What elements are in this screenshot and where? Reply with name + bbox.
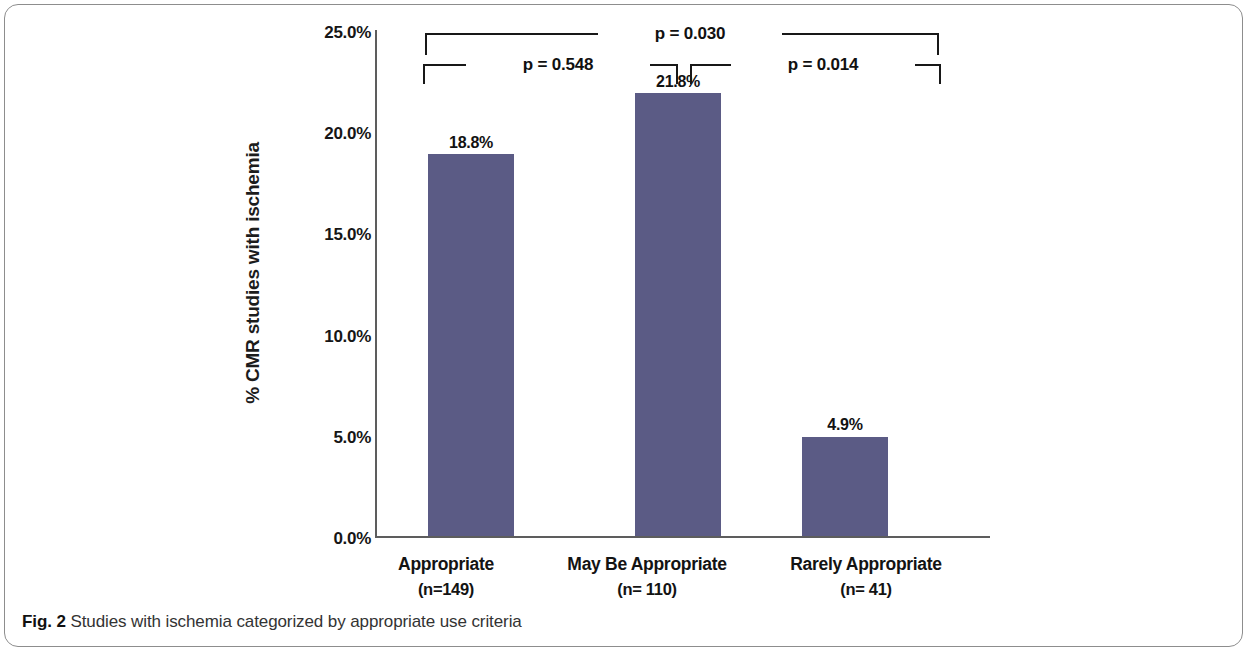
plot-region: 18.8% 21.8% 4.9% (375, 30, 990, 538)
x-category-may-be-appropriate: May Be Appropriate (n= 110) (537, 552, 757, 602)
bar-rarely-appropriate[interactable] (802, 437, 888, 537)
y-axis-title: % CMR studies with ischemia (242, 108, 268, 438)
y-axis-line (375, 30, 377, 538)
bar-appropriate[interactable] (428, 154, 514, 536)
x-category-label: Rarely Appropriate (790, 554, 942, 574)
y-axis-title-label: % CMR studies with ischemia (242, 108, 264, 438)
x-category-appropriate: Appropriate (n=149) (348, 552, 544, 602)
x-category-label: May Be Appropriate (567, 554, 726, 574)
figure-caption-label: Fig. 2 (22, 612, 66, 631)
x-category-count: (n= 41) (760, 577, 972, 602)
figure-caption-text: Studies with ischemia categorized by app… (70, 612, 521, 631)
x-category-count: (n=149) (348, 577, 544, 602)
bar-chart: % CMR studies with ischemia 25.0% 20.0% … (0, 0, 1249, 605)
y-tick-label: 15.0% (293, 225, 371, 245)
x-category-rarely-appropriate: Rarely Appropriate (n= 41) (760, 552, 972, 602)
bar-value-appropriate: 18.8% (428, 134, 514, 152)
y-tick-label: 20.0% (293, 124, 371, 144)
figure-container: % CMR studies with ischemia 25.0% 20.0% … (0, 0, 1249, 653)
x-category-count: (n= 110) (537, 577, 757, 602)
y-tick-label: 5.0% (293, 428, 371, 448)
significance-label-appropriate-vs-rarely: p = 0.030 (598, 24, 782, 44)
x-category-label: Appropriate (398, 554, 494, 574)
significance-label-appropriate-vs-maybe: p = 0.548 (466, 55, 650, 75)
figure-caption: Fig. 2 Studies with ischemia categorized… (22, 612, 1202, 632)
y-tick-label: 0.0% (293, 529, 371, 549)
y-tick-label: 10.0% (293, 327, 371, 347)
x-axis-line (375, 536, 990, 538)
significance-label-maybe-vs-rarely: p = 0.014 (731, 55, 915, 75)
bar-may-be-appropriate[interactable] (635, 93, 721, 536)
bar-value-rarely-appropriate: 4.9% (802, 416, 888, 434)
y-axis-tick-labels: 25.0% 20.0% 15.0% 10.0% 5.0% 0.0% (289, 0, 371, 605)
y-tick-label: 25.0% (293, 23, 371, 43)
